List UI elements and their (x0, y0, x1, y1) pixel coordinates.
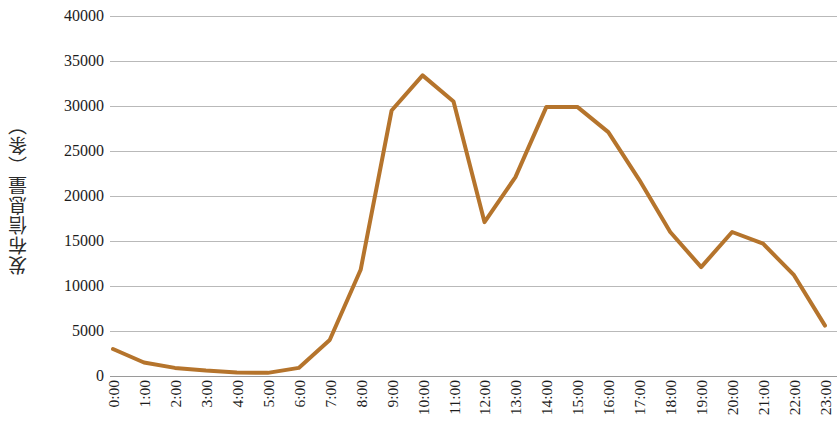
series-line-layer (110, 0, 837, 390)
x-tick-label-11-00: 11:00 (446, 380, 464, 415)
x-tick-label-19-00: 19:00 (693, 380, 711, 415)
x-tick-label-13-00: 13:00 (507, 380, 525, 415)
plot-area (110, 0, 837, 390)
x-tick-label-12-00: 12:00 (476, 380, 494, 415)
x-tick-label-17-00: 17:00 (631, 380, 649, 415)
y-axis-tick-labels: 0500010000150002000025000300003500040000 (36, 0, 104, 390)
x-tick-label-2-00: 2:00 (167, 380, 185, 408)
y-tick-label-10000: 10000 (36, 277, 104, 295)
y-tick-label-20000: 20000 (36, 187, 104, 205)
x-tick-label-9-00: 9:00 (384, 380, 402, 408)
y-tick-label-35000: 35000 (36, 52, 104, 70)
x-tick-label-20-00: 20:00 (724, 380, 742, 415)
x-tick-label-8-00: 8:00 (353, 380, 371, 408)
line-chart: 发布信息量（条） 0500010000150002000025000300003… (0, 0, 839, 438)
x-tick-label-18-00: 18:00 (662, 380, 680, 415)
y-tick-label-15000: 15000 (36, 232, 104, 250)
x-tick-label-23-00: 23:00 (817, 380, 835, 415)
y-tick-label-0: 0 (36, 367, 104, 385)
x-tick-label-22-00: 22:00 (786, 380, 804, 415)
y-tick-label-5000: 5000 (36, 322, 104, 340)
x-tick-label-5-00: 5:00 (260, 380, 278, 408)
series-line-发布信息量 (113, 75, 825, 372)
x-axis-tick-labels: 0:001:002:003:004:005:006:007:008:009:00… (110, 380, 837, 438)
x-tick-label-6-00: 6:00 (291, 380, 309, 408)
y-tick-label-25000: 25000 (36, 142, 104, 160)
x-tick-label-3-00: 3:00 (198, 380, 216, 408)
x-tick-label-16-00: 16:00 (600, 380, 618, 415)
x-tick-label-1-00: 1:00 (136, 380, 154, 408)
x-tick-label-4-00: 4:00 (229, 380, 247, 408)
x-tick-label-15-00: 15:00 (569, 380, 587, 415)
y-tick-label-40000: 40000 (36, 7, 104, 25)
x-tick-label-10-00: 10:00 (415, 380, 433, 415)
y-tick-label-30000: 30000 (36, 97, 104, 115)
x-tick-label-14-00: 14:00 (538, 380, 556, 415)
x-tick-label-7-00: 7:00 (322, 380, 340, 408)
y-axis-title: 发布信息量（条） (0, 0, 34, 390)
x-tick-label-21-00: 21:00 (755, 380, 773, 415)
x-tick-label-0-00: 0:00 (105, 380, 123, 408)
y-axis-title-text: 发布信息量（条） (4, 115, 31, 275)
